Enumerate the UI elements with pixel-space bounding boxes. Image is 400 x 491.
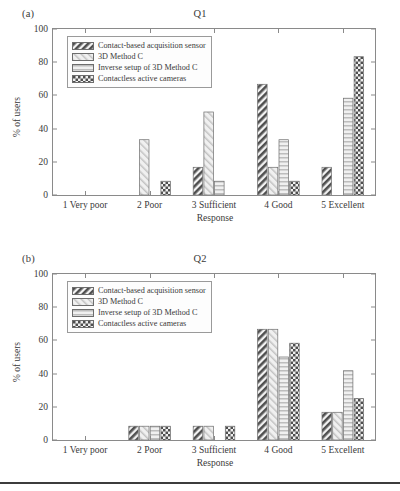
legend-swatch-icon [72, 75, 94, 83]
panel-a-title: Q1 [0, 8, 400, 19]
legend-label: Contactless active cameras [98, 319, 186, 329]
legend-swatch-icon [72, 298, 94, 306]
panel-b-xtick-mark-top [343, 274, 344, 278]
panel-b-xtick-mark [150, 436, 151, 440]
bar [333, 412, 343, 440]
panel-a-xtick-mark-top [214, 29, 215, 33]
bar [343, 371, 353, 440]
bar [322, 412, 332, 440]
bar [354, 399, 364, 441]
panel-a-ytick-label: 20 [39, 157, 49, 167]
panel-b-ytick-label: 60 [39, 335, 49, 345]
panel-a-xtick-label: 3 Sufficient [192, 200, 236, 210]
panel-b-plot-area: % of users Response 0204060801001 Very p… [52, 273, 376, 441]
panel-a-xtick-mark-top [343, 29, 344, 33]
panel-a-xtick-mark-top [278, 29, 279, 33]
bar [268, 329, 278, 440]
legend-swatch-icon [72, 64, 94, 72]
panel-b-q2: (b) Q2 % of users Response 0204060801001… [0, 245, 400, 485]
panel-a-legend: Contact-based acquisition sensor3D Metho… [67, 36, 212, 88]
bar [225, 426, 235, 440]
bar [140, 140, 150, 195]
panel-a-ytick-label: 0 [43, 190, 48, 200]
legend-swatch-icon [72, 287, 94, 295]
panel-a-xtick-mark-top [150, 29, 151, 33]
panel-b-xtick-mark [343, 436, 344, 440]
panel-a-ytick-label: 80 [39, 57, 49, 67]
panel-a-xtick-label: 2 Poor [137, 200, 162, 210]
figure-survey-results: (a) Q1 % of users Response 0204060801001… [0, 0, 400, 491]
panel-a-xtick-mark [85, 191, 86, 195]
panel-b-xtick-mark [214, 436, 215, 440]
panel-b-ytick-label: 0 [43, 435, 48, 445]
panel-a-xtick-label: 4 Good [264, 200, 292, 210]
legend-item: Inverse setup of 3D Method C [72, 62, 206, 73]
panel-a-x-axis-label: Response [53, 213, 377, 223]
bar [161, 181, 171, 195]
bar [279, 140, 289, 195]
panel-b-xtick-label: 4 Good [264, 445, 292, 455]
bar [215, 181, 225, 195]
legend-label: Inverse setup of 3D Method C [98, 63, 197, 73]
bar [258, 329, 268, 440]
panel-b-title: Q2 [0, 253, 400, 264]
panel-b-xtick-label: 2 Poor [137, 445, 162, 455]
panel-b-xtick-mark-top [150, 274, 151, 278]
bar [290, 343, 300, 440]
legend-item: Inverse setup of 3D Method C [72, 307, 206, 318]
bar [129, 426, 139, 440]
panel-b-xtick-mark-top [85, 274, 86, 278]
panel-a-xtick-label: 1 Very poor [63, 200, 108, 210]
panel-b-xtick-label: 5 Excellent [321, 445, 364, 455]
bar [322, 167, 332, 195]
bar [193, 167, 203, 195]
bar [268, 167, 278, 195]
legend-label: 3D Method C [98, 52, 143, 62]
bar [150, 426, 160, 440]
panel-a-xtick-mark [150, 191, 151, 195]
panel-b-xtick-label: 1 Very poor [63, 445, 108, 455]
legend-item: Contact-based acquisition sensor [72, 40, 206, 51]
panel-b-ytick-label: 80 [39, 302, 49, 312]
panel-b-ytick-label: 20 [39, 402, 49, 412]
bar [290, 181, 300, 195]
legend-item: 3D Method C [72, 51, 206, 62]
panel-b-ytick-label: 100 [34, 269, 48, 279]
panel-a-y-axis-label: % of users [12, 57, 22, 177]
panel-a-ytick-label: 100 [34, 24, 48, 34]
figure-bottom-rule [0, 482, 400, 484]
bar [204, 112, 214, 195]
legend-label: Contact-based acquisition sensor [98, 41, 206, 51]
panel-a-ytick-label: 60 [39, 90, 49, 100]
panel-a-plot-area: % of users Response 0204060801001 Very p… [52, 28, 376, 196]
panel-b-xtick-mark [85, 436, 86, 440]
legend-item: Contactless active cameras [72, 73, 206, 84]
panel-b-xtick-mark-top [278, 274, 279, 278]
legend-item: Contact-based acquisition sensor [72, 285, 206, 296]
legend-item: 3D Method C [72, 296, 206, 307]
panel-a-xtick-mark [278, 191, 279, 195]
bar [204, 426, 214, 440]
panel-b-x-axis-label: Response [53, 458, 377, 468]
panel-b-ytick-label: 40 [39, 369, 49, 379]
panel-a-xtick-label: 5 Excellent [321, 200, 364, 210]
legend-label: Contactless active cameras [98, 74, 186, 84]
legend-swatch-icon [72, 309, 94, 317]
panel-b-xtick-mark [278, 436, 279, 440]
legend-item: Contactless active cameras [72, 318, 206, 329]
bar [354, 57, 364, 195]
bar [258, 84, 268, 195]
legend-swatch-icon [72, 42, 94, 50]
bar [343, 98, 353, 195]
panel-b-xtick-mark-top [214, 274, 215, 278]
panel-a-xtick-mark [214, 191, 215, 195]
panel-a-xtick-mark [343, 191, 344, 195]
legend-swatch-icon [72, 320, 94, 328]
legend-label: Inverse setup of 3D Method C [98, 308, 197, 318]
panel-b-legend: Contact-based acquisition sensor3D Metho… [67, 281, 212, 333]
legend-label: Contact-based acquisition sensor [98, 286, 206, 296]
bar [193, 426, 203, 440]
panel-a-q1: (a) Q1 % of users Response 0204060801001… [0, 0, 400, 240]
panel-b-y-axis-label: % of users [12, 302, 22, 422]
bar [279, 357, 289, 440]
